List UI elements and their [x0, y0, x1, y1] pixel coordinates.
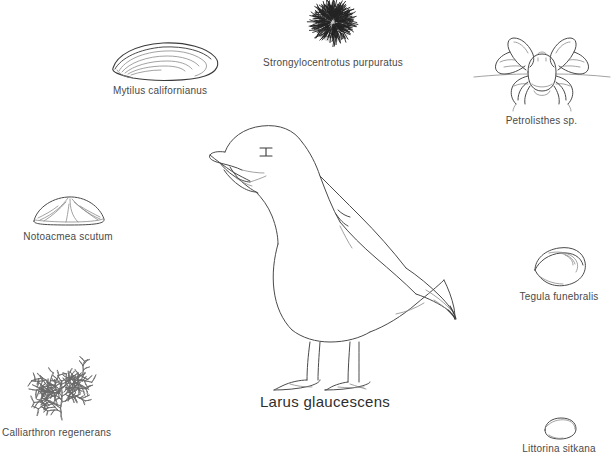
sea-urchin-icon [253, 0, 413, 52]
organism-mussel: Mytilus californianus [95, 38, 225, 100]
organism-coralline-alga: Calliarthron regenerans [0, 336, 128, 444]
mussel-shell-icon [95, 38, 225, 84]
limpet-shell-icon [8, 188, 128, 230]
label-coralline-alga: Calliarthron regenerans [2, 428, 111, 438]
organism-limpet: Notoacmea scutum [8, 188, 128, 246]
glaucous-winged-gull-icon [190, 118, 460, 390]
label-crab: Petrolisthes sp. [506, 116, 578, 126]
organism-urchin: Strongylocentrotus purpuratus [253, 0, 413, 78]
turban-snail-shell-icon [505, 244, 613, 290]
illustration-plate: Mytilus californianus Strongylocentrotus… [0, 0, 613, 462]
label-mussel: Mytilus californianus [113, 86, 207, 96]
branching-alga-icon [0, 336, 128, 424]
organism-periwinkle: Littorina sitkana [505, 414, 613, 462]
label-limpet: Notoacmea scutum [23, 232, 112, 242]
organism-crab: Petrolisthes sp. [470, 34, 613, 134]
organism-turban-snail: Tegula funebralis [505, 244, 613, 302]
organism-gull: Larus glaucescens [190, 118, 460, 418]
porcelain-crab-icon [470, 34, 613, 112]
label-turban-snail: Tegula funebralis [519, 292, 598, 302]
label-gull: Larus glaucescens [260, 394, 390, 409]
periwinkle-shell-icon [505, 414, 613, 442]
label-urchin: Strongylocentrotus purpuratus [263, 58, 403, 68]
label-periwinkle: Littorina sitkana [522, 444, 595, 454]
